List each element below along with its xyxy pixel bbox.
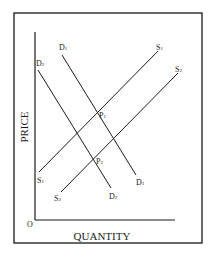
supply-demand-diagram: D1 D2 S1 S2 S1 S2 D1 D2 P1 P2 O QUANTITY… bbox=[0, 0, 213, 256]
x-axis-label: QUANTITY bbox=[74, 230, 131, 242]
label-s1-top: S1 bbox=[156, 43, 163, 52]
label-s1-bottom: S1 bbox=[37, 176, 44, 185]
label-p1: P1 bbox=[99, 111, 106, 120]
y-axis-label: PRICE bbox=[18, 111, 30, 142]
demand-curve-d2 bbox=[38, 70, 111, 188]
label-s2-top: S2 bbox=[175, 65, 182, 74]
label-s2-bottom: S2 bbox=[54, 194, 61, 203]
label-d1-bottom: D1 bbox=[136, 178, 145, 187]
label-d1-top: D1 bbox=[59, 43, 68, 52]
label-d2-bottom: D2 bbox=[109, 192, 118, 201]
label-d2-top: D2 bbox=[36, 59, 45, 68]
frame-border bbox=[14, 13, 202, 243]
label-p2: P2 bbox=[96, 157, 103, 166]
origin-label: O bbox=[27, 220, 33, 229]
